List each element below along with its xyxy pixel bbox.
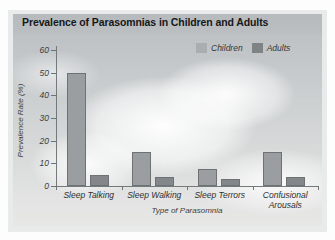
bar-adults-1 (155, 177, 174, 186)
y-tick-label: 20 (23, 136, 49, 146)
bars-layer (56, 46, 318, 186)
y-tick-label: 60 (23, 45, 49, 55)
y-tick-label: 10 (23, 158, 49, 168)
x-tick (318, 186, 319, 190)
chart-screenshot: Prevalence of Parasomnias in Children an… (0, 0, 335, 240)
y-tick-label: 50 (23, 68, 49, 78)
bar-adults-0 (90, 175, 109, 186)
y-tick-label: 40 (23, 90, 49, 100)
bar-children-2 (198, 169, 217, 186)
bar-children-0 (67, 73, 86, 186)
bar-children-1 (132, 152, 151, 186)
y-tick-label: 0 (23, 181, 49, 191)
bar-adults-3 (286, 177, 305, 186)
bar-adults-2 (221, 179, 240, 186)
x-axis-title: Type of Parasomnia (56, 206, 318, 215)
chart-title: Prevalence of Parasomnias in Children an… (22, 16, 268, 28)
x-category-label: Sleep Walking (122, 190, 188, 200)
x-category-label: Sleep Terrors (187, 190, 253, 200)
y-tick-label: 30 (23, 113, 49, 123)
bar-children-3 (263, 152, 282, 186)
x-category-label: Sleep Talking (56, 190, 122, 200)
